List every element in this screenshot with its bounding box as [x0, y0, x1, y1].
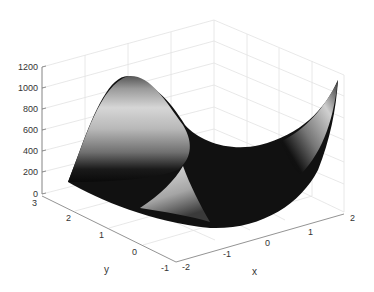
x-tick-neg2: -2	[182, 262, 190, 272]
x-tick-2: 2	[350, 213, 355, 223]
y-axis-label: y	[104, 264, 109, 275]
surface-plot	[0, 0, 374, 292]
x-tick-0: 0	[265, 238, 270, 248]
z-tick-1000: 1000	[4, 83, 38, 93]
y-tick-3: 3	[32, 198, 37, 208]
x-tick-neg1: -1	[223, 249, 231, 259]
y-tick-0: 0	[132, 247, 137, 257]
z-axis-tick-marks	[42, 66, 46, 194]
z-tick-600: 600	[4, 125, 38, 135]
x-axis-label: x	[252, 266, 257, 277]
x-tick-1: 1	[308, 227, 313, 237]
z-tick-800: 800	[4, 104, 38, 114]
z-tick-400: 400	[4, 146, 38, 156]
z-tick-1200: 1200	[4, 62, 38, 72]
z-tick-200: 200	[4, 167, 38, 177]
y-tick-1: 1	[99, 230, 104, 240]
y-tick-neg1: -1	[161, 263, 169, 273]
y-tick-2: 2	[66, 213, 71, 223]
